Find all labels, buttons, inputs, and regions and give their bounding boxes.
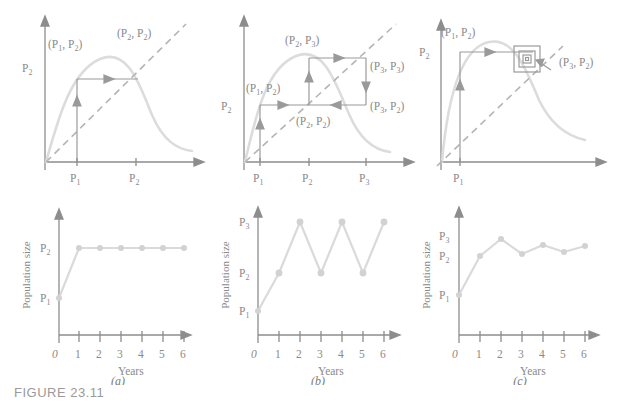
ts-c-line	[459, 239, 585, 295]
ts-b-xticks	[279, 331, 384, 342]
ts-b-points	[255, 219, 387, 314]
svg-text:4: 4	[539, 348, 545, 360]
svg-text:3: 3	[518, 348, 524, 360]
ts-a-line	[59, 248, 184, 298]
cobweb-b-arrow3	[305, 72, 313, 82]
ts-a-ylabel: Population size	[20, 241, 32, 309]
timeseries-c-svg: P3 P2 P1 0 123 456 Years Population size…	[415, 195, 636, 385]
cobweb-c-xtick-label-0: P1	[453, 172, 463, 187]
cobweb-right-arrow-a	[104, 75, 114, 83]
ts-b-ylabel: Population size	[219, 241, 231, 309]
ts-a-x-arrow	[181, 331, 191, 339]
ts-a-y-arrow	[55, 209, 63, 219]
ts-b-line	[258, 222, 384, 311]
figure-container: P2 P1 P2 (P1, P2) (P2, P2)	[0, 0, 636, 415]
svg-text:2: 2	[296, 348, 302, 360]
timeseries-b-svg: P3 P2 P1 0 123 456 Years Population size…	[208, 195, 423, 385]
svg-text:2: 2	[96, 348, 102, 360]
ts-a-xtick-labels: 0 123 456	[52, 348, 186, 360]
ts-a-ytick-label-1: P1	[40, 292, 50, 307]
timeseries-panel-c: P3 P2 P1 0 123 456 Years Population size…	[415, 195, 636, 385]
svg-text:5: 5	[560, 348, 566, 360]
svg-text:6: 6	[180, 348, 186, 360]
svg-text:0: 0	[251, 348, 257, 360]
svg-text:1: 1	[75, 348, 81, 360]
cobweb-panel-a: P2 P1 P2 (P1, P2) (P2, P2)	[0, 0, 215, 195]
svg-text:1: 1	[275, 348, 281, 360]
figure-caption: FIGURE 23.11	[14, 385, 104, 400]
cobweb-a-annotation-1: (P2, P2)	[117, 27, 151, 42]
x-axis-arrow-b	[404, 158, 414, 166]
cobweb-c-svg: P2 P1 (P1, P2) (P3, P2)	[415, 0, 636, 195]
svg-text:0: 0	[52, 348, 58, 360]
ts-b-ytick-label-2: P1	[239, 305, 249, 320]
cobweb-c-right-arrow	[485, 48, 495, 56]
ts-c-x-arrow	[589, 331, 599, 339]
cobweb-a-annotation-0: (P1, P2)	[48, 38, 82, 53]
ts-c-xticks	[480, 331, 585, 342]
x-axis-arrow-c	[596, 158, 606, 166]
svg-text:5: 5	[159, 348, 165, 360]
ts-a-xticks	[79, 331, 184, 342]
cobweb-c-ylabel: P2	[419, 46, 429, 61]
y-axis-arrow-a	[41, 16, 49, 26]
svg-text:6: 6	[380, 348, 386, 360]
cobweb-up-arrow-a	[73, 96, 81, 106]
cobweb-a-ylabel: P2	[22, 62, 32, 77]
replacement-diagonal-c	[437, 46, 563, 166]
cobweb-a-xtick-label-0: P1	[70, 172, 80, 187]
panel-letter-c: (c)	[513, 374, 526, 385]
ts-b-x-arrow	[390, 331, 400, 339]
ts-b-y-arrow	[254, 207, 262, 217]
svg-text:4: 4	[338, 348, 344, 360]
panel-letter-a: (a)	[111, 374, 125, 385]
cobweb-b-arrow6	[331, 101, 341, 109]
x-axis-arrow-a	[194, 158, 204, 166]
cobweb-b-annotation-3: (P3, P2)	[370, 100, 404, 115]
cobweb-a-svg: P2 P1 P2 (P1, P2) (P2, P2)	[0, 0, 215, 195]
svg-text:0: 0	[452, 348, 458, 360]
recruitment-curve-a	[46, 57, 192, 162]
svg-text:2: 2	[497, 348, 503, 360]
ts-c-ylabel: Population size	[420, 241, 432, 309]
cobweb-b-annotation-4: (P2, P2)	[296, 115, 330, 130]
ts-c-ytick-label-2: P1	[439, 289, 449, 304]
svg-text:1: 1	[476, 348, 482, 360]
timeseries-panel-a: P2 P1 0 123 456 Years Population size (a…	[0, 195, 215, 385]
cobweb-b-annotation-0: (P2, P3)	[285, 34, 319, 49]
recruitment-curve-b	[245, 54, 390, 162]
cobweb-panel-b: P2 P1 P2 P3 (P2, P3) (P3, P3) (P1, P2) (…	[208, 0, 423, 195]
cobweb-b-xtick-label-0: P1	[253, 172, 263, 187]
timeseries-a-svg: P2 P1 0 123 456 Years Population size (a…	[0, 195, 215, 385]
ts-a-points	[56, 245, 187, 301]
svg-text:3: 3	[317, 348, 323, 360]
cobweb-c-annotation-0: (P1, P2)	[441, 26, 475, 41]
ts-c-points	[456, 236, 588, 298]
cobweb-b-ylabel: P2	[221, 100, 231, 115]
cobweb-panel-c: P2 P1 (P1, P2) (P3, P2)	[415, 0, 636, 195]
cobweb-a-xtick-label-1: P2	[129, 172, 139, 187]
timeseries-panel-b: P3 P2 P1 0 123 456 Years Population size…	[208, 195, 423, 385]
panel-letter-b: (b)	[311, 374, 325, 385]
ts-b-ytick-label-1: P2	[239, 267, 249, 282]
svg-text:5: 5	[359, 348, 365, 360]
ts-c-y-arrow	[455, 207, 463, 217]
cobweb-b-annotation-1: (P3, P3)	[370, 60, 404, 75]
cobweb-b-svg: P2 P1 P2 P3 (P2, P3) (P3, P3) (P1, P2) (…	[208, 0, 423, 195]
cobweb-c-annotation-1: (P3, P2)	[559, 56, 593, 71]
ts-b-xtick-labels: 0 123 456	[251, 348, 386, 360]
cobweb-b-arrow5	[362, 82, 370, 92]
ts-a-ytick-label-0: P2	[40, 242, 50, 257]
cobweb-b-arrow1	[256, 119, 264, 129]
svg-text:6: 6	[581, 348, 587, 360]
svg-text:3: 3	[117, 348, 123, 360]
cobweb-b-arrow2	[278, 101, 288, 109]
y-axis-arrow-b	[240, 16, 248, 26]
svg-text:4: 4	[138, 348, 144, 360]
cobweb-c-converging-spiral	[514, 46, 540, 72]
cobweb-b-xtick-label-1: P2	[302, 172, 312, 187]
ts-b-ytick-label-0: P3	[239, 216, 249, 231]
ts-c-xtick-labels: 0 123 456	[452, 348, 587, 360]
ts-c-ytick-label-1: P2	[439, 250, 449, 265]
cobweb-b-xtick-label-2: P3	[359, 172, 369, 187]
